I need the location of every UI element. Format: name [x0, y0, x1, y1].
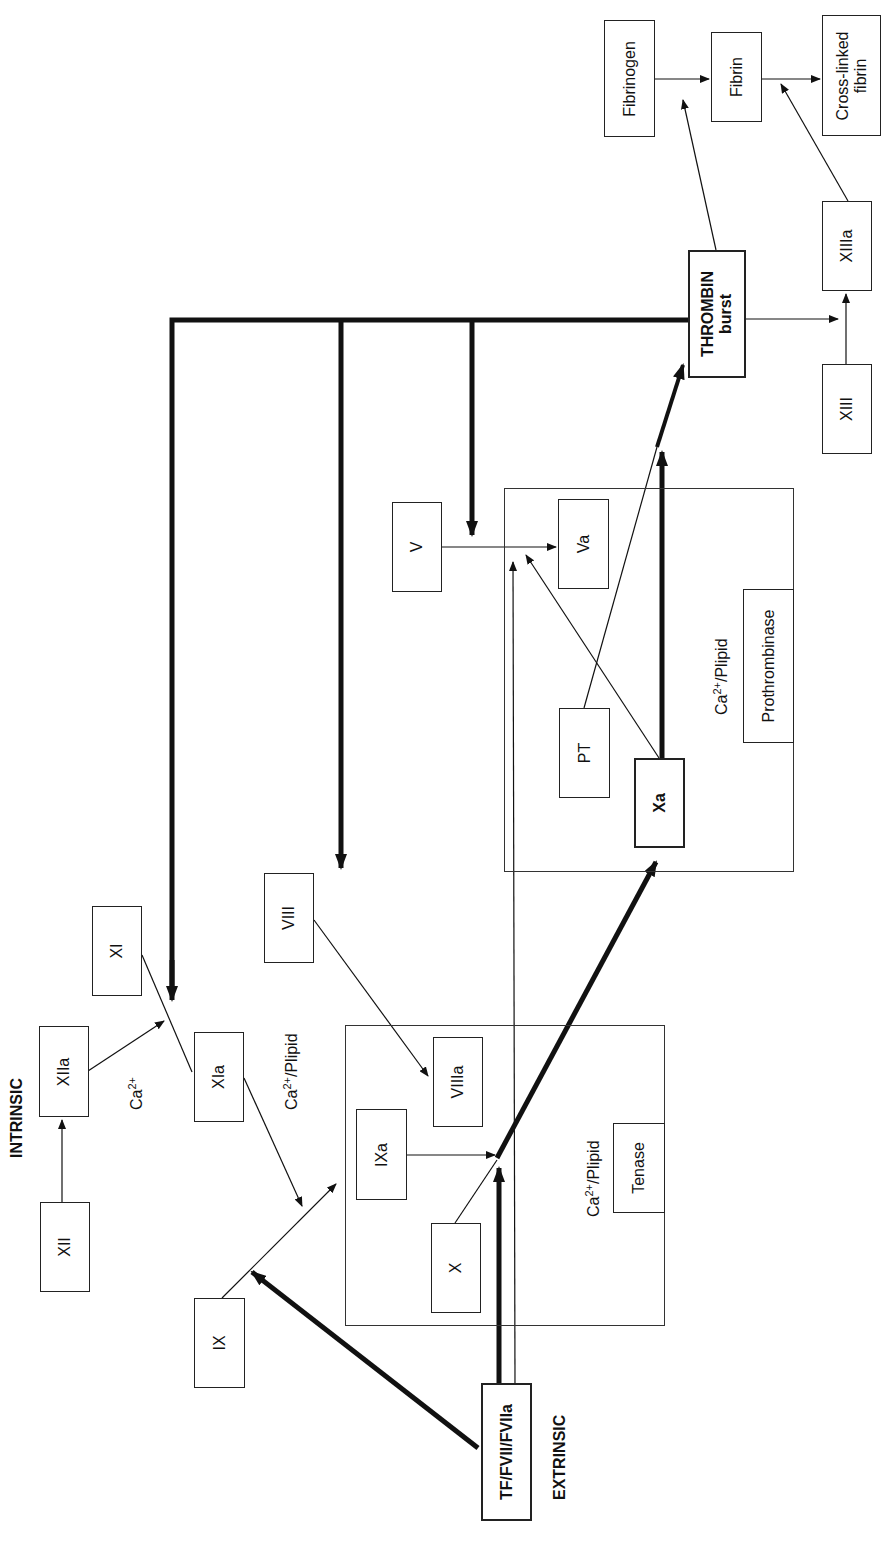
line-xi-to-xia — [142, 955, 192, 1072]
node-fibrinogen: Fibrinogen — [604, 20, 655, 137]
tenase-label-box: Tenase — [613, 1123, 665, 1213]
node-v: V — [392, 502, 442, 592]
prothrombinase-label-box: Prothrombinase — [743, 589, 794, 743]
node-xiiia: XIIIa — [822, 201, 872, 291]
ca-plipid-label-xia: Ca2+/Plipid — [283, 1033, 301, 1110]
arrow-xiia-to-xi — [88, 1021, 164, 1071]
ca-label-intrinsic: Ca2+ — [128, 1077, 146, 1110]
node-fibrin: Fibrin — [711, 32, 762, 122]
ca-plipid-label-tenase: Ca2+/Plipid — [585, 1140, 603, 1217]
node-va: Va — [558, 499, 609, 589]
node-xii: XII — [40, 1202, 90, 1292]
ca-plipid-label-prothrombinase: Ca2+/Plipid — [713, 638, 731, 715]
node-xiia: XIIa — [39, 1026, 89, 1117]
arrow-pt-to-thrombin — [657, 365, 683, 447]
node-xa: Xa — [634, 758, 685, 848]
node-xi: XI — [92, 906, 142, 996]
node-pt: PT — [559, 708, 610, 798]
node-tf-fvii-fviia: TF/FVII/FVIIa — [481, 1383, 532, 1521]
node-xia: XIa — [194, 1032, 244, 1122]
node-x: X — [431, 1223, 481, 1313]
node-ixa: IXa — [356, 1109, 407, 1200]
node-viii: VIII — [264, 873, 314, 963]
intrinsic-label: INTRINSIC — [8, 1078, 26, 1158]
arrow-thrombin-to-fibrin — [683, 100, 716, 250]
node-viiia: VIIIa — [433, 1037, 483, 1127]
node-ix: IX — [194, 1298, 245, 1388]
arrow-ix-to-ixa — [222, 1184, 336, 1298]
node-thrombin-burst: THROMBINburst — [688, 250, 746, 378]
extrinsic-label: EXTRINSIC — [551, 1415, 569, 1500]
node-crosslinked-fibrin: Cross-linkedfibrin — [822, 15, 881, 136]
node-xiii: XIII — [822, 364, 872, 454]
